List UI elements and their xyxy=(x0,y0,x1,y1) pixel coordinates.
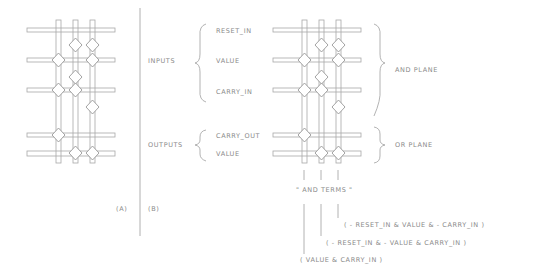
panel-a-label: (A) xyxy=(116,205,127,213)
pla-grid-a xyxy=(27,20,115,163)
product-term-1: ( - Reset_In & Value & - Carry_In ) xyxy=(344,221,485,229)
and-term-ticks xyxy=(304,170,338,180)
inputs-group-label: Inputs xyxy=(148,57,175,65)
outputs-group-label: Outputs xyxy=(148,141,183,149)
and-plane-label: AND Plane xyxy=(395,66,438,74)
output-label-carry-out: Carry_Out xyxy=(216,132,260,140)
and-terms-label: " AND Terms " xyxy=(296,186,353,194)
product-term-3: ( Value & Carry_In ) xyxy=(300,256,383,264)
input-label-value: Value xyxy=(216,57,240,65)
product-term-2: ( - Reset_In & - Value & Carry_In ) xyxy=(326,239,467,247)
panel-b-label: (B) xyxy=(148,205,159,213)
inputs-brace xyxy=(195,24,206,102)
and-plane-brace xyxy=(374,24,385,116)
output-label-value: Value xyxy=(216,150,240,158)
or-plane-brace xyxy=(374,127,385,163)
pla-grid-b xyxy=(273,20,361,163)
or-plane-label: OR Plane xyxy=(395,141,433,149)
outputs-brace xyxy=(195,130,206,161)
input-label-reset-in: Reset_In xyxy=(216,27,252,35)
input-label-carry-in: Carry_In xyxy=(216,88,252,96)
pla-diagram-canvas xyxy=(0,0,541,279)
